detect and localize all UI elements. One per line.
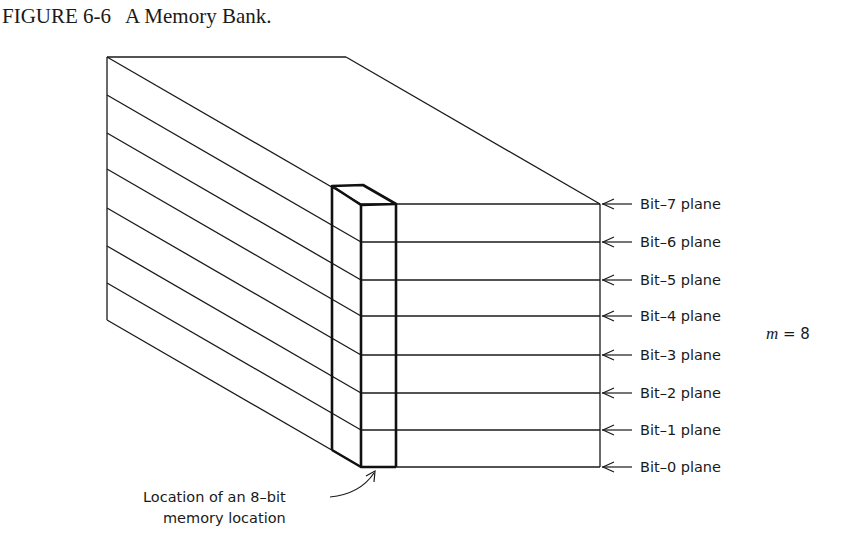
bit-plane-label: Bit–3 plane [640,347,721,363]
column-top-face [332,185,396,205]
m-variable: m [766,324,778,343]
bit-plane-labels: Bit–7 planeBit–6 planeBit–5 planeBit–4 p… [640,196,721,475]
bit-plane-label: Bit–1 plane [640,422,721,438]
plane-slope-line [107,320,361,467]
bit-plane-label: Bit–4 plane [640,308,721,324]
callout-arrow [330,473,374,497]
plane-slope-line [107,95,361,242]
bit-plane-label: Bit–2 plane [640,385,721,401]
location-callout: Location of an 8–bit memory location [143,471,375,526]
location-label-line2: memory location [163,510,286,526]
plane-slope-line [107,246,361,393]
plane-slope-line [107,57,361,204]
plane-count-label: m = 8 [766,324,810,343]
bit-plane-label: Bit–5 plane [640,272,721,288]
plane-slope-line [107,283,361,430]
plane-slope-line [107,133,361,280]
top-right-edge [346,57,600,204]
bit-plane-label: Bit–6 plane [640,234,721,250]
plane-slope-line [107,169,361,316]
m-value: = 8 [783,325,810,343]
memory-location-column [332,185,396,467]
memory-bank-diagram: Bit–7 planeBit–6 planeBit–5 planeBit–4 p… [0,0,863,549]
plane-slope-line [107,208,361,355]
bit-plane-label: Bit–0 plane [640,459,721,475]
location-label-line1: Location of an 8–bit [143,489,286,505]
memory-bank-box [107,57,600,467]
column-bottom-edge [332,450,396,467]
bit-plane-arrows [602,199,632,472]
bit-plane-label: Bit–7 plane [640,196,721,212]
